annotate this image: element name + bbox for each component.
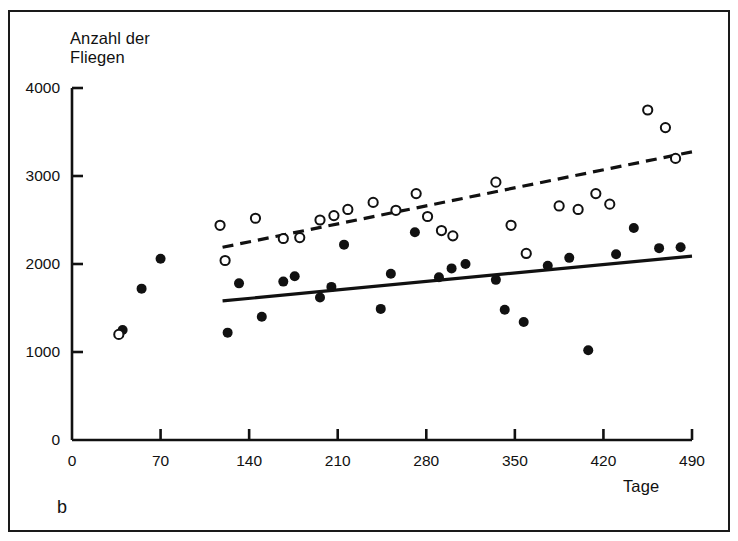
open-data-point [423, 212, 432, 221]
x-axis-tick-label: 420 [590, 452, 616, 470]
open-data-point [574, 205, 583, 214]
filled-data-point [500, 305, 510, 315]
open-data-point [522, 249, 531, 258]
x-axis-tick-label: 210 [325, 452, 351, 470]
filled-data-point [447, 263, 457, 273]
y-axis-tick-label: 4000 [8, 79, 60, 97]
open-data-point [555, 201, 564, 210]
open-data-point [315, 215, 324, 224]
open-data-point [661, 123, 670, 132]
open-data-point [369, 198, 378, 207]
open-data-point [506, 221, 515, 230]
open-data-point [437, 226, 446, 235]
open-data-point [491, 178, 500, 187]
open-data-point [215, 221, 224, 230]
filled-data-point [461, 259, 471, 269]
open-data-point [251, 214, 260, 223]
filled-data-point [583, 345, 593, 355]
filled-data-point [223, 328, 233, 338]
filled-data-point [290, 271, 300, 281]
filled-data-point [491, 275, 501, 285]
x-axis-tick-label: 490 [679, 452, 705, 470]
open-data-point [343, 205, 352, 214]
filled-data-point [234, 278, 244, 288]
x-axis-label: Tage [623, 477, 659, 496]
filled-data-point [315, 292, 325, 302]
filled-data-point [629, 223, 639, 233]
x-axis-tick-label: 0 [68, 452, 77, 470]
y-axis-tick-label: 1000 [8, 343, 60, 361]
open-data-point [643, 105, 652, 114]
filled-data-point [611, 249, 621, 259]
y-axis-tick-label: 3000 [8, 167, 60, 185]
x-axis-tick-label: 70 [152, 452, 169, 470]
open-data-point [295, 233, 304, 242]
filled-data-point [434, 272, 444, 282]
open-data-point [671, 154, 680, 163]
y-axis-label: Anzahl derFliegen [70, 29, 150, 68]
filled-data-point [564, 253, 574, 263]
filled-data-point [326, 282, 336, 292]
open-data-point [329, 211, 338, 220]
filled-data-point [519, 317, 529, 327]
filled-data-point [654, 243, 664, 253]
filled-data-point [339, 240, 349, 250]
open-data-point [391, 206, 400, 215]
filled-data-point [156, 254, 166, 264]
open-data-point [114, 330, 123, 339]
open-data-point [448, 231, 457, 240]
data-points [114, 105, 685, 355]
filled-data-point [410, 227, 420, 237]
figure-container: Anzahl derFliegen Tage b 010002000300040… [0, 0, 738, 541]
filled-data-point [137, 284, 147, 294]
y-axis-tick-label: 0 [8, 431, 60, 449]
y-axis-tick-label: 2000 [8, 255, 60, 273]
x-axis-tick-label: 350 [502, 452, 528, 470]
y-axis-label-line2: Fliegen [70, 48, 125, 66]
open-data-point [221, 256, 230, 265]
filled-data-point [676, 242, 686, 252]
y-axis-label-line1: Anzahl der [70, 29, 150, 47]
filled-data-point [543, 261, 553, 271]
open-data-point [605, 200, 614, 209]
x-axis-tick-label: 280 [413, 452, 439, 470]
filled-data-point [278, 277, 288, 287]
open-data-point [412, 189, 421, 198]
x-axis-tick-label: 140 [236, 452, 262, 470]
scatter-plot-canvas [0, 0, 738, 541]
open-data-point [591, 189, 600, 198]
filled-data-point [386, 269, 396, 279]
filled-data-point [376, 304, 386, 314]
filled-data-point [257, 312, 267, 322]
open-data-point [279, 234, 288, 243]
panel-label: b [57, 497, 67, 518]
